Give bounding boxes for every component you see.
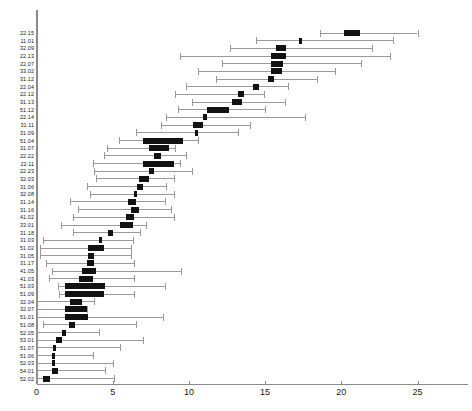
whisker-line (256, 40, 393, 41)
box-iqr (120, 222, 132, 228)
whisker-line (136, 132, 238, 133)
whisker-cap-low (230, 45, 231, 52)
box-iqr (43, 376, 51, 382)
whisker-line (216, 79, 317, 80)
whisker-cap-low (37, 352, 38, 359)
x-axis-tick-label: 0 (34, 387, 39, 397)
x-axis-tick-label: 10 (184, 387, 194, 397)
box-iqr (65, 306, 86, 312)
whisker-cap-high (146, 222, 147, 229)
box-iqr (195, 130, 198, 136)
box-iqr (65, 283, 105, 289)
whisker-line (40, 248, 131, 249)
whisker-line (175, 94, 263, 95)
whisker-line (78, 209, 171, 210)
whisker-line (61, 225, 146, 226)
box-iqr (139, 176, 150, 182)
whisker-line (96, 178, 174, 179)
whisker-cap-high (131, 245, 132, 252)
whisker-cap-low (87, 183, 88, 190)
box-iqr (87, 260, 95, 266)
whisker-cap-high (99, 329, 100, 336)
box-iqr (149, 168, 154, 174)
whisker-cap-low (37, 344, 38, 351)
whisker-cap-low (136, 129, 137, 136)
whisker-line (70, 201, 164, 202)
whisker-cap-high (288, 83, 289, 90)
whisker-cap-high (134, 275, 135, 282)
whisker-line (37, 301, 95, 302)
whisker-cap-high (136, 321, 137, 328)
whisker-cap-low (37, 337, 38, 344)
whisker-cap-high (120, 344, 121, 351)
whisker-cap-low (61, 222, 62, 229)
box-iqr (99, 237, 102, 243)
box-iqr (268, 76, 274, 82)
whisker-cap-low (46, 260, 47, 267)
box-iqr (238, 91, 244, 97)
box-iqr (134, 191, 137, 197)
whisker-cap-low (94, 168, 95, 175)
whisker-cap-low (222, 60, 223, 67)
box-iqr (56, 337, 62, 343)
box-iqr (207, 107, 228, 113)
box-iqr (271, 68, 282, 74)
whisker-cap-low (70, 198, 71, 205)
whisker-line (320, 33, 418, 34)
box-iqr (253, 84, 259, 90)
box-iqr (154, 153, 162, 159)
box-iqr (65, 314, 88, 320)
whisker-line (186, 86, 288, 87)
whisker-cap-high (87, 306, 88, 313)
whisker-cap-low (320, 30, 321, 37)
box-iqr (271, 53, 286, 59)
x-axis-tick-label: 25 (412, 387, 422, 397)
box-iqr (52, 360, 55, 366)
whisker-cap-low (178, 106, 179, 113)
whisker-cap-low (107, 145, 108, 152)
whisker-cap-high (165, 198, 166, 205)
whisker-cap-high (305, 114, 306, 121)
whisker-cap-high (133, 237, 134, 244)
whisker-line (166, 117, 305, 118)
box-iqr (65, 291, 103, 297)
box-iqr (131, 207, 139, 213)
boxplot-chart: 22.1511.0132.0922.1322.0733.0231.1222.04… (0, 0, 472, 411)
whisker-cap-low (43, 237, 44, 244)
whisker-cap-high (250, 122, 251, 129)
whisker-cap-low (119, 137, 120, 144)
x-axis-tick (341, 381, 342, 385)
whisker-cap-low (175, 91, 176, 98)
whisker-cap-high (238, 129, 239, 136)
whisker-cap-high (163, 314, 164, 321)
whisker-cap-high (264, 91, 265, 98)
whisker-cap-high (113, 360, 114, 367)
whisker-cap-low (216, 76, 217, 83)
x-axis-tick (113, 381, 114, 385)
box-iqr (143, 138, 183, 144)
whisker-line (37, 370, 106, 371)
whisker-cap-high (94, 298, 95, 305)
whisker-line (198, 71, 335, 72)
whisker-line (37, 332, 99, 333)
whisker-cap-low (37, 360, 38, 367)
whisker-cap-high (390, 53, 391, 60)
whisker-line (73, 217, 174, 218)
whisker-cap-low (93, 160, 94, 167)
whisker-cap-high (285, 99, 286, 106)
x-axis-tick-label: 5 (110, 387, 115, 397)
whisker-cap-high (180, 160, 181, 167)
whisker-cap-high (174, 175, 175, 182)
x-axis-tick (418, 381, 419, 385)
box-iqr (149, 145, 169, 151)
whisker-cap-low (166, 114, 167, 121)
whisker-cap-high (418, 30, 419, 37)
box-iqr (82, 268, 96, 274)
whisker-line (37, 340, 144, 341)
box-iqr (203, 114, 208, 120)
plot-area: 22.1511.0132.0922.1322.0733.0231.1222.04… (0, 0, 472, 411)
whisker-line (104, 155, 186, 156)
boxplot-row: 52.02 (0, 375, 472, 383)
whisker-cap-high (114, 375, 115, 382)
whisker-cap-high (134, 291, 135, 298)
